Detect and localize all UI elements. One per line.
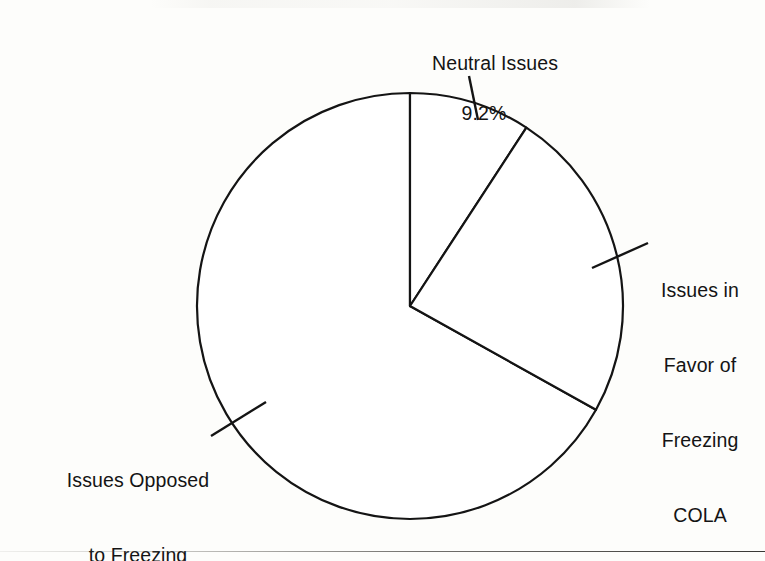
pie-label-neutral-text: Neutral Issues bbox=[432, 52, 558, 74]
page-footer-rule bbox=[0, 551, 765, 552]
pie-label-favor-text-line2: Favor of bbox=[638, 353, 762, 378]
pie-label-favor: Issues in Favor of Freezing COLA 23.9% bbox=[638, 228, 762, 561]
pie-label-favor-text-line3: Freezing bbox=[638, 428, 762, 453]
pie-label-favor-text-line4: COLA bbox=[638, 503, 762, 528]
pie-label-opposed-text-line1: Issues Opposed bbox=[18, 468, 258, 493]
pie-label-neutral: Neutral Issues 9.2% bbox=[354, 26, 614, 176]
pie-label-opposed-text-line2: to Freezing bbox=[18, 543, 258, 561]
pie-label-favor-text-line1: Issues in bbox=[638, 278, 762, 303]
pie-label-opposed: Issues Opposed to Freezing COLA 66.9% bbox=[18, 418, 258, 561]
pie-chart-figure: Neutral Issues 9.2% Issues in Favor of F… bbox=[0, 0, 765, 561]
pie-label-neutral-value: 9.2% bbox=[354, 101, 614, 126]
